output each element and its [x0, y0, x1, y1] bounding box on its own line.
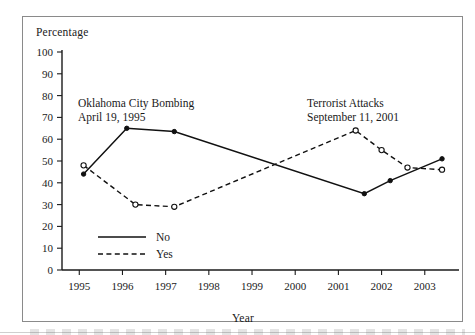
data-point-yes-1: [133, 202, 138, 207]
x-tick-label-2000: 2000: [284, 280, 307, 292]
data-point-no-1: [125, 126, 129, 130]
y-tick-label-50: 50: [42, 155, 54, 167]
chart-legend: NoYes: [98, 231, 173, 260]
series-layer: [81, 126, 445, 209]
data-point-yes-3: [353, 128, 358, 133]
data-point-yes-4: [379, 148, 384, 153]
y-tick-label-100: 100: [37, 46, 54, 58]
data-point-yes-2: [172, 204, 177, 209]
x-tick-label-2001: 2001: [327, 280, 349, 292]
y-tick-label-0: 0: [48, 264, 54, 276]
y-tick-label-20: 20: [42, 220, 54, 232]
data-point-no-5: [440, 157, 444, 161]
data-point-no-3: [362, 192, 366, 196]
figure-container: Percentage Year Oklahoma City Bombing Ap…: [0, 0, 475, 335]
x-tick-label-1998: 1998: [198, 280, 221, 292]
line-chart: 0102030405060708090100 19951996199719981…: [0, 0, 475, 335]
data-point-no-4: [388, 178, 392, 182]
x-tick-label-2003: 2003: [414, 280, 437, 292]
y-tick-label-90: 90: [42, 68, 54, 80]
legend-label-no: No: [156, 231, 170, 243]
series-line-yes: [84, 130, 442, 206]
x-tick-label-2002: 2002: [371, 280, 393, 292]
y-tick-label-80: 80: [42, 90, 54, 102]
x-tick-label-1999: 1999: [241, 280, 264, 292]
y-tick-label-10: 10: [42, 242, 54, 254]
data-point-no-0: [81, 172, 85, 176]
data-point-yes-5: [405, 165, 410, 170]
x-tick-label-1997: 1997: [155, 280, 178, 292]
legend-label-yes: Yes: [156, 248, 173, 260]
data-point-yes-6: [439, 167, 444, 172]
data-point-yes-0: [81, 163, 86, 168]
y-axis-ticks: 0102030405060708090100: [37, 46, 63, 276]
y-tick-label-60: 60: [42, 133, 54, 145]
x-axis-ticks: 199519961997199819992000200120022003: [68, 270, 436, 292]
plot-area: 0102030405060708090100 19951996199719981…: [0, 0, 475, 335]
y-tick-label-40: 40: [42, 177, 54, 189]
x-tick-label-1996: 1996: [111, 280, 134, 292]
x-tick-label-1995: 1995: [68, 280, 91, 292]
y-tick-label-70: 70: [42, 111, 54, 123]
y-tick-label-30: 30: [42, 199, 54, 211]
data-point-no-2: [172, 129, 176, 133]
series-line-no: [84, 128, 442, 193]
